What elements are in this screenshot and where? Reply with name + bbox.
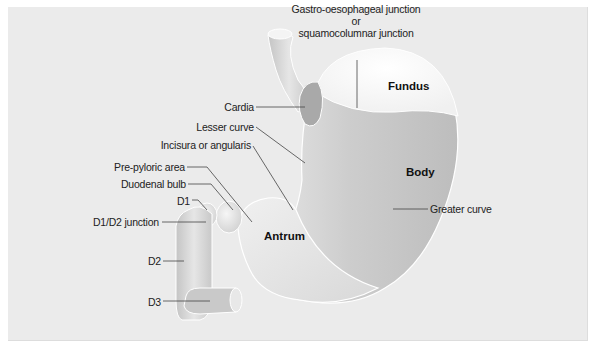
label-duodenal-bulb: Duodenal bulb [121,178,186,190]
label-d3: D3 [148,296,161,308]
label-gastro-oesophageal-junction: Gastro-oesophageal junction or squamocol… [281,3,431,39]
label-line: or [281,15,431,27]
label-cardia: Cardia [224,101,254,113]
region-label-fundus: Fundus [388,80,430,92]
label-pre-pyloric-area: Pre-pyloric area [114,161,185,173]
label-d1: D1 [177,195,190,207]
leader-line-lesser-curve [256,127,305,163]
label-d2: D2 [148,255,161,267]
label-greater-curve: Greater curve [430,203,492,215]
label-line: squamocolumnar junction [281,27,431,39]
region-label-antrum: Antrum [264,230,305,242]
label-line: Gastro-oesophageal junction [281,3,431,15]
label-lesser-curve: Lesser curve [196,121,254,133]
stomach-diagram [0,0,595,347]
label-incisura-or-angularis: Incisura or angularis [161,139,251,151]
label-d1-d2-junction: D1/D2 junction [93,216,159,228]
region-label-body: Body [406,166,435,178]
